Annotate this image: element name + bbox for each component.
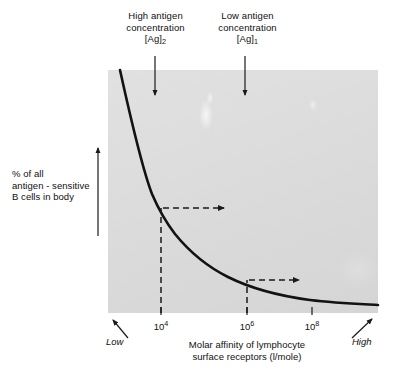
callout-high-bracket: [Ag] bbox=[145, 33, 162, 44]
x-tick-label-1-exp: 6 bbox=[250, 319, 254, 328]
y-axis-label-line2: antigen - sensitive bbox=[12, 180, 98, 192]
callout-low-antigen: Low antigen concentration [Ag]1 bbox=[190, 10, 305, 45]
x-axis-label: Molar affinity of lymphocyte surface rec… bbox=[152, 339, 342, 362]
decay-curve bbox=[120, 70, 378, 305]
x-tick-label-0-base: 10 bbox=[154, 321, 165, 332]
x-axis-low-label: Low bbox=[106, 336, 123, 347]
callout-high-subscript: 2 bbox=[162, 37, 166, 46]
x-tick-label-0: 104 bbox=[145, 321, 177, 332]
y-axis-label: % of all antigen - sensitive B cells in … bbox=[12, 168, 98, 203]
x-tick-label-1: 106 bbox=[231, 321, 263, 332]
callout-low-line1: Low antigen bbox=[190, 10, 305, 22]
x-axis-label-line2: surface receptors (l/mole) bbox=[152, 351, 342, 363]
callout-low-line2: concentration bbox=[190, 22, 305, 34]
y-axis-label-line1: % of all bbox=[12, 168, 98, 180]
callout-low-line3: [Ag]1 bbox=[190, 33, 305, 45]
x-axis-high-label: High bbox=[352, 336, 372, 347]
figure-container: High antigen concentration [Ag]2 Low ant… bbox=[0, 0, 404, 377]
x-tick-label-1-base: 10 bbox=[240, 321, 251, 332]
x-tick-label-2: 108 bbox=[296, 321, 328, 332]
callout-low-subscript: 1 bbox=[254, 37, 258, 46]
x-tick-label-2-exp: 8 bbox=[315, 319, 319, 328]
x-tick-label-2-base: 10 bbox=[305, 321, 316, 332]
callout-low-bracket: [Ag] bbox=[237, 33, 254, 44]
x-tick-label-0-exp: 4 bbox=[164, 319, 168, 328]
y-axis-label-line3: B cells in body bbox=[12, 191, 98, 203]
x-axis-label-line1: Molar affinity of lymphocyte bbox=[152, 339, 342, 351]
